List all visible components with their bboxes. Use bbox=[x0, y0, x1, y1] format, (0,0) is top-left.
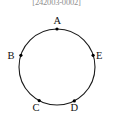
point-dot-b bbox=[19, 54, 22, 57]
point-label-e: E bbox=[96, 51, 102, 62]
point-dot-e bbox=[92, 54, 95, 57]
circle-outline bbox=[19, 29, 95, 105]
point-label-c: C bbox=[33, 103, 40, 114]
figure-page: [242003-0002] ABCDE bbox=[0, 0, 113, 116]
point-label-a: A bbox=[54, 16, 62, 27]
point-label-b: B bbox=[8, 51, 15, 62]
point-dot-a bbox=[55, 27, 58, 30]
point-label-d: D bbox=[71, 103, 79, 114]
